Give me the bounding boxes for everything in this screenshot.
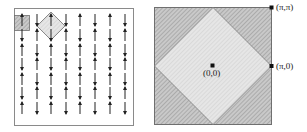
- label-origin: (0,0): [203, 68, 220, 78]
- edge-point-marker: [270, 64, 274, 68]
- center-point-marker: [211, 64, 215, 68]
- brillouin-zone-panel: (π,π) (π,0) (0,0): [155, 2, 294, 125]
- lattice-frame: [15, 9, 134, 126]
- figure: (π,π) (π,0) (0,0): [0, 0, 307, 132]
- real-space-lattice-panel: [15, 9, 134, 126]
- label-pi-pi: (π,π): [276, 2, 293, 12]
- label-pi-0: (π,0): [276, 61, 293, 71]
- corner-point-marker: [270, 6, 274, 10]
